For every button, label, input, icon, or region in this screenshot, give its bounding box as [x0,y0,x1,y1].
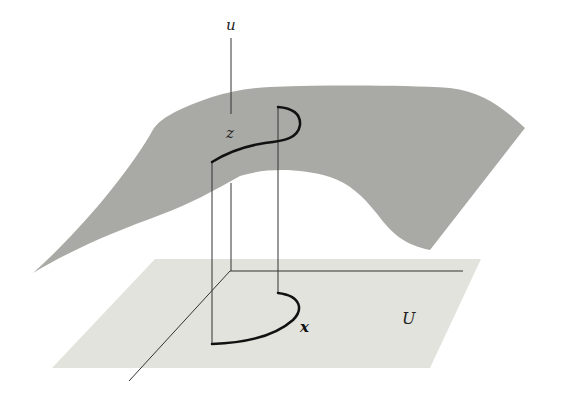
graph-surface [33,86,525,273]
domain-plane [52,259,481,368]
u-axis-label: u [226,16,236,34]
diagram-canvas: u z x U [0,0,563,409]
x-label: x [299,318,310,336]
domain-label: U [402,309,416,328]
z-label: z [225,124,234,142]
